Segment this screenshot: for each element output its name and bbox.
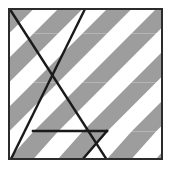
figure-container: Tessellated rhombus stripe pattern with … (0, 0, 173, 170)
rhombus-tile-group (0, 9, 173, 159)
pattern-figure: Tessellated rhombus stripe pattern with … (0, 0, 173, 170)
